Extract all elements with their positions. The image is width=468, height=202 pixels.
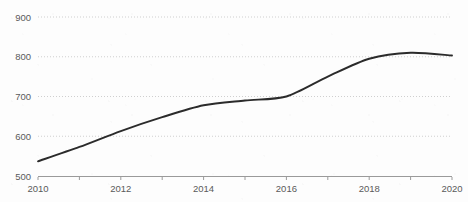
y-tick-label-900: 900 xyxy=(15,12,31,23)
gridlines xyxy=(38,17,452,136)
data-series xyxy=(38,53,452,162)
x-axis-tick-labels: 201020122014201620182020 xyxy=(27,183,462,194)
y-tick-label-800: 800 xyxy=(15,51,31,62)
x-tick-label-2020: 2020 xyxy=(441,183,462,194)
y-tick-label-600: 600 xyxy=(15,131,31,142)
x-tick-label-2010: 2010 xyxy=(27,183,48,194)
x-axis-tick-marks xyxy=(38,177,452,180)
x-tick-label-2012: 2012 xyxy=(110,183,131,194)
y-tick-label-500: 500 xyxy=(15,171,31,182)
y-axis-tick-labels: 500600700800900 xyxy=(15,12,31,182)
y-tick-label-700: 700 xyxy=(15,91,31,102)
x-tick-label-2014: 2014 xyxy=(193,183,214,194)
line-chart: 500600700800900 201020122014201620182020 xyxy=(0,0,468,202)
series-line-0 xyxy=(38,53,452,162)
x-tick-label-2018: 2018 xyxy=(359,183,380,194)
chart-screenshot: 500600700800900 201020122014201620182020 xyxy=(0,0,468,202)
x-tick-label-2016: 2016 xyxy=(276,183,297,194)
